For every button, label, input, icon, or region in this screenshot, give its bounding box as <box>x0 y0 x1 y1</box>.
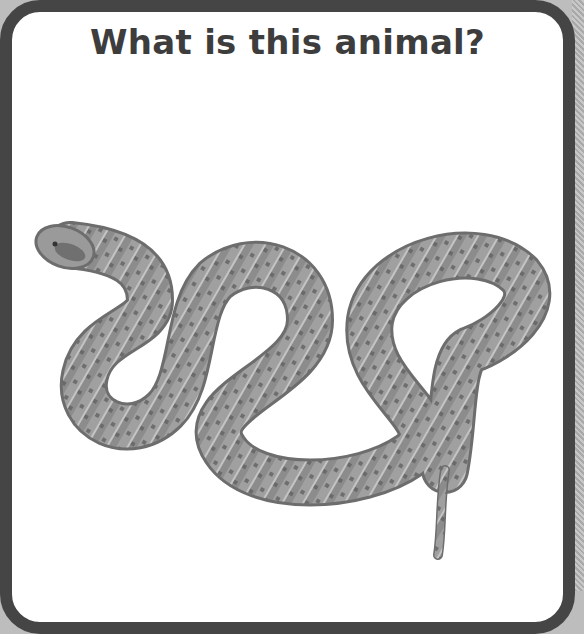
snake-eye <box>53 242 58 247</box>
